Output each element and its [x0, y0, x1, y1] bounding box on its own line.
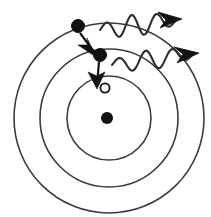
atom-diagram-canvas	[0, 0, 211, 217]
electron-outer-shell	[72, 20, 85, 33]
nucleus-group	[101, 112, 113, 124]
electron-middle-shell	[94, 49, 107, 62]
photon-upper	[100, 12, 182, 37]
bohr-atom-figure: Bohr atom electron transition with photo…	[0, 0, 211, 217]
nucleus	[101, 112, 113, 124]
vacancy-inner-shell	[100, 83, 109, 92]
